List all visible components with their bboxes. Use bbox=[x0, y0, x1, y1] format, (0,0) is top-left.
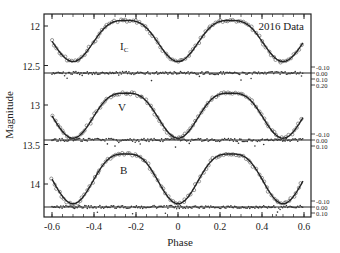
plot-frame bbox=[44, 14, 311, 217]
x-tick-label: -0.6 bbox=[44, 221, 60, 232]
residual-tick-label: 0.20 bbox=[316, 82, 327, 89]
x-tick-label: 0 bbox=[176, 221, 181, 232]
residual-tick-label: 0.10 bbox=[316, 210, 327, 217]
y-axis-label: Magnitude bbox=[3, 91, 15, 139]
x-tick-label: -0.2 bbox=[128, 221, 144, 232]
y-tick-label: 14 bbox=[30, 179, 40, 190]
axis-ticks: -0.6-0.4-0.200.20.40.61212.51313.514-0.1… bbox=[23, 14, 330, 232]
band-label-ic: IC bbox=[120, 40, 129, 54]
x-tick-label: 0.6 bbox=[298, 221, 311, 232]
band-label-b: B bbox=[120, 164, 127, 176]
band-label-v: V bbox=[118, 101, 126, 113]
x-axis-label: Phase bbox=[167, 236, 193, 248]
x-tick-label: -0.4 bbox=[86, 221, 102, 232]
x-tick-label: 0.2 bbox=[214, 221, 227, 232]
model-fit-curves bbox=[52, 21, 303, 204]
y-tick-label: 12 bbox=[30, 21, 40, 32]
y-tick-label: 13 bbox=[30, 100, 40, 111]
x-tick-label: 0.4 bbox=[256, 221, 269, 232]
light-curve-chart: -0.6-0.4-0.200.20.40.61212.51313.514-0.1… bbox=[0, 0, 340, 253]
y-tick-label: 12.5 bbox=[23, 61, 41, 72]
data-year-annotation: 2016 Data bbox=[258, 20, 304, 32]
y-tick-label: 13.5 bbox=[23, 140, 41, 151]
residual-tick-label: 0.10 bbox=[316, 143, 327, 150]
